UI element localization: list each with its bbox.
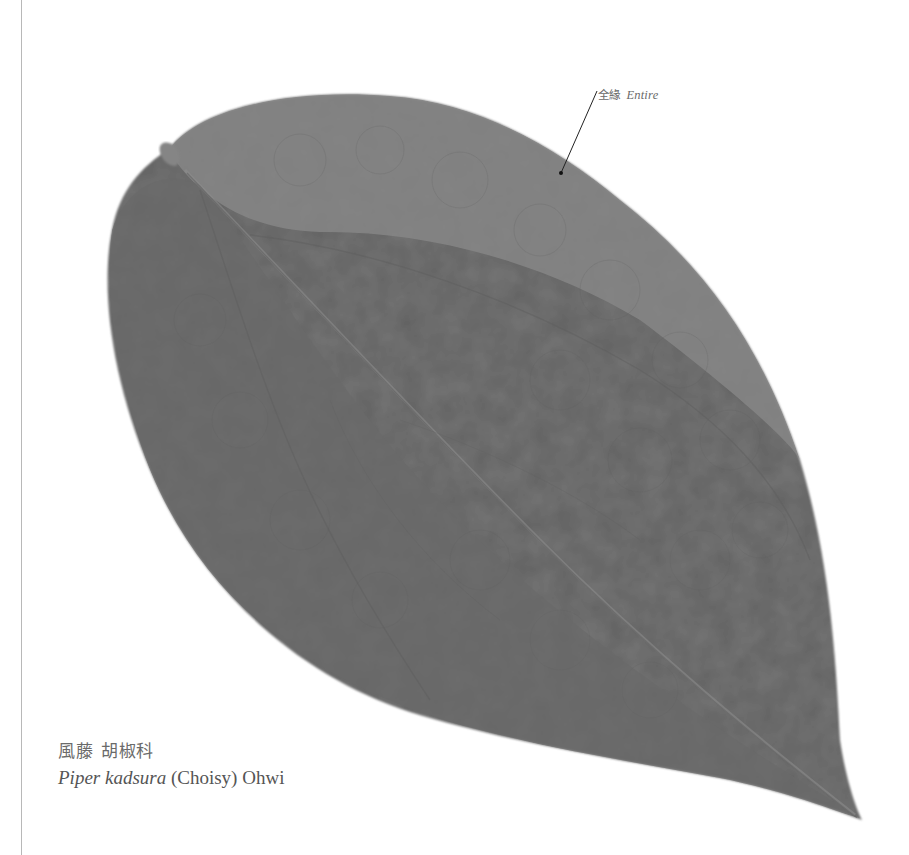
scientific-name: Piper kadsura xyxy=(58,767,166,788)
name-authority: (Choisy) Ohwi xyxy=(171,767,284,788)
annotation-label-entire: 全緣Entire xyxy=(598,86,658,103)
annotation-pointer-line xyxy=(561,91,597,173)
family-name-cjk: 胡椒科 xyxy=(101,741,154,761)
leaf-illustration xyxy=(0,0,909,855)
caption-cjk-names: 風藤胡椒科 xyxy=(58,738,284,764)
annotation-label-cjk: 全緣 xyxy=(598,88,620,102)
caption-scientific-name: Piper kadsura (Choisy) Ohwi xyxy=(58,764,284,792)
common-name-cjk: 風藤 xyxy=(58,741,93,761)
specimen-caption: 風藤胡椒科 Piper kadsura (Choisy) Ohwi xyxy=(58,738,284,792)
annotation-label-en: Entire xyxy=(626,88,658,102)
annotation-pointer-dot xyxy=(559,171,563,175)
